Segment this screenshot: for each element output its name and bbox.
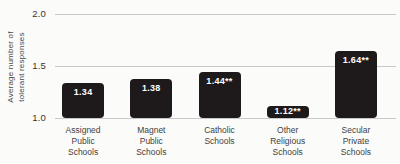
bar-slot: 1.38 [117,79,185,119]
bar-slot: 1.44** [185,72,253,118]
bar-value-label: 1.44** [206,77,232,86]
bar: 1.34 [62,83,104,118]
bar: 1.64** [335,51,377,118]
bar-value-label: 1.64** [343,56,369,65]
y-tick-label: 1.0 [32,112,46,123]
y-axis-ticks: 2.01.51.0 [0,14,49,118]
x-category-label: Assigned Public Schools [49,125,117,158]
bar-value-label: 1.34 [74,88,93,97]
x-category-label: Other Religious Schools [254,125,322,158]
plot-area: 1.341.381.44**1.12**1.64** [49,14,390,118]
bar-slot: 1.12** [254,106,322,119]
y-tick-label: 1.5 [32,60,46,71]
bar-value-label: 1.12** [275,107,301,116]
x-category-label: Magnet Public Schools [117,125,185,158]
x-category-label: Catholic Schools [185,125,253,147]
bar-slot: 1.34 [49,83,117,118]
bar: 1.38 [130,79,172,119]
x-axis-category-labels: Assigned Public SchoolsMagnet Public Sch… [49,125,390,158]
bar: 1.12** [267,106,309,119]
bar-slot: 1.64** [322,51,390,118]
bar: 1.44** [199,72,241,118]
bar-chart: Average number of tolerant responses 2.0… [0,0,400,164]
y-tick-label: 2.0 [32,8,46,19]
x-category-label: Secular Private Schools [322,125,390,158]
bar-value-label: 1.38 [142,84,161,93]
bars-container: 1.341.381.44**1.12**1.64** [49,14,390,118]
